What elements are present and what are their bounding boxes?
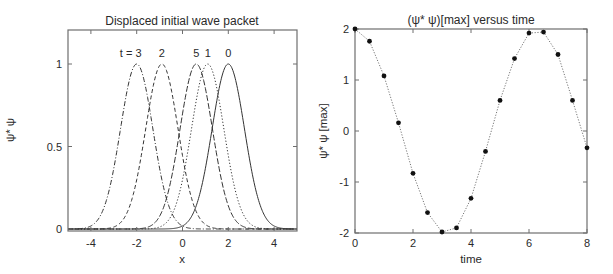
data-point: [396, 120, 401, 125]
axis-ticks-left: -4-202400.51: [47, 30, 297, 249]
chart-title-left: Displaced initial wave packet: [105, 14, 259, 28]
curve-label: 5: [193, 47, 199, 59]
series-line: [355, 29, 587, 232]
wave-packet-curves: [68, 64, 297, 229]
data-point: [440, 230, 445, 235]
axis-ticks-right: 02468-2-1012: [339, 23, 590, 249]
data-point: [498, 98, 503, 103]
data-point: [541, 30, 546, 35]
data-point: [353, 27, 358, 32]
data-point: [425, 210, 430, 215]
x-tick-label: 4: [271, 237, 277, 249]
data-point: [411, 171, 416, 176]
x-tick-label: 4: [468, 237, 474, 249]
y-tick-label: 0: [56, 223, 62, 235]
max-vs-time-chart: (ψ* ψ)[max] versus time 02468-2-1012 tim…: [317, 13, 590, 265]
x-tick-label: -2: [132, 237, 142, 249]
curve-t5: [68, 64, 297, 229]
y-tick-label: 1: [343, 74, 349, 86]
y-tick-label: -2: [339, 227, 349, 239]
data-point: [527, 31, 532, 36]
curve-t1: [68, 64, 297, 229]
x-tick-label: 2: [410, 237, 416, 249]
x-tick-label: 0: [352, 237, 358, 249]
wave-packet-chart: Displaced initial wave packet 012t = 35 …: [4, 14, 297, 265]
data-point: [382, 74, 387, 79]
curve-label: 1: [205, 47, 211, 59]
curve-labels: 012t = 35: [120, 47, 232, 59]
x-tick-label: 8: [584, 237, 590, 249]
curve-t3: [68, 64, 297, 229]
y-tick-label: 2: [343, 23, 349, 35]
curve-label: 0: [225, 47, 231, 59]
curve-t0: [68, 64, 297, 229]
x-tick-label: 6: [526, 237, 532, 249]
curve-label: t = 3: [120, 47, 142, 59]
x-tick-label: 2: [225, 237, 231, 249]
y-axis-label-right: ψ* ψ [max]: [317, 103, 329, 158]
max-series: [353, 27, 590, 235]
y-tick-label: -1: [339, 176, 349, 188]
x-tick-label: 0: [179, 237, 185, 249]
data-point: [454, 226, 459, 231]
data-point: [512, 56, 517, 61]
curve-t2: [68, 64, 297, 229]
data-point: [585, 145, 590, 150]
figure: Displaced initial wave packet 012t = 35 …: [0, 0, 613, 274]
x-axis-label-right: time: [460, 253, 482, 265]
chart-title-right: (ψ* ψ)[max] versus time: [407, 13, 534, 27]
data-point: [367, 39, 372, 44]
plot-area-right: [355, 29, 587, 233]
x-tick-label: -4: [86, 237, 96, 249]
data-point: [483, 149, 488, 154]
y-tick-label: 0.5: [47, 141, 62, 153]
y-tick-label: 0: [343, 125, 349, 137]
x-axis-label-left: x: [179, 253, 185, 265]
plot-area-left: [68, 30, 297, 231]
data-point: [469, 196, 474, 201]
y-axis-label-left: ψ* ψ: [4, 118, 16, 142]
curve-label: 2: [159, 47, 165, 59]
data-point: [556, 52, 561, 57]
y-tick-label: 1: [56, 58, 62, 70]
data-point: [570, 98, 575, 103]
